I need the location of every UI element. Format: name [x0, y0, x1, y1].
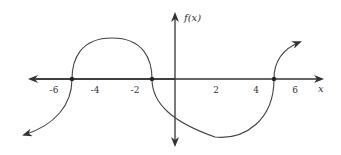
function-curve-left: [24, 79, 72, 135]
zero-point: [70, 77, 74, 81]
tick-label: 2: [213, 85, 219, 95]
y-axis-label: f(x): [183, 12, 201, 23]
tick-label: 6: [292, 85, 298, 95]
tick-label: -6: [50, 85, 59, 95]
zero-point: [272, 77, 276, 81]
tick-label: -4: [91, 85, 100, 95]
function-graph: -6 -4 -2 2 4 6 x f(x): [0, 0, 341, 155]
function-curve: [72, 38, 300, 137]
zero-point: [150, 77, 154, 81]
tick-label: 4: [253, 85, 259, 95]
x-axis-label: x: [318, 83, 324, 94]
tick-label: -2: [131, 85, 140, 95]
